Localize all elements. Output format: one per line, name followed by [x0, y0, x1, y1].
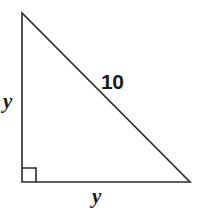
- vertical-leg-label: y: [3, 91, 12, 112]
- hypotenuse-label: 10: [101, 71, 123, 92]
- triangle-drawing: [0, 0, 197, 210]
- right-angle-marker-icon: [22, 168, 36, 182]
- triangle-figure: y y 10: [0, 0, 197, 210]
- horizontal-leg-label: y: [92, 186, 101, 207]
- triangle-outline: [22, 13, 190, 182]
